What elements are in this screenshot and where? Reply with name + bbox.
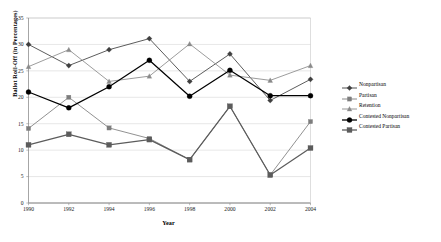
series-line <box>29 106 311 175</box>
data-point <box>308 77 313 82</box>
legend-label: Retention <box>358 102 380 108</box>
series-retention <box>26 41 313 83</box>
legend-item-contested-nonpartisan[interactable]: Contested Nonpartisan <box>341 111 439 122</box>
legend-marker-square-icon <box>341 121 358 131</box>
legend-label: Contested Nonpartisan <box>358 113 409 119</box>
data-point <box>106 47 111 52</box>
legend-label: Nonpartisan <box>358 81 386 87</box>
data-point <box>147 137 152 142</box>
data-point <box>107 126 111 130</box>
data-point <box>268 172 273 177</box>
legend-marker-triangle-icon <box>341 100 358 110</box>
data-point <box>66 47 71 52</box>
series-nonpartisan <box>26 36 313 103</box>
series-line <box>29 39 311 101</box>
legend-marker-circle-icon <box>341 111 358 121</box>
data-point <box>308 93 313 98</box>
series-line <box>29 44 311 82</box>
legend-item-partisan[interactable]: Partisan <box>341 90 439 101</box>
data-point <box>26 142 31 147</box>
data-point <box>26 90 31 95</box>
data-point <box>308 63 313 68</box>
data-series-layer <box>26 36 313 177</box>
data-point <box>308 146 313 151</box>
series-contested-partisan <box>26 104 313 178</box>
chart-container: Ballot Roll-Off (in Percentages) Year 05… <box>0 0 441 242</box>
data-point <box>26 42 31 47</box>
data-point <box>66 63 71 68</box>
legend-item-retention[interactable]: Retention <box>341 100 439 111</box>
data-point <box>66 105 71 110</box>
legend-marker-square-icon <box>341 90 358 100</box>
legend-item-contested-partisan[interactable]: Contested Partisan <box>341 121 439 132</box>
data-point <box>227 104 232 109</box>
legend-item-nonpartisan[interactable]: Nonpartisan <box>341 79 439 90</box>
legend-label: Contested Partisan <box>358 123 400 129</box>
data-point <box>268 93 273 98</box>
chart-legend: NonpartisanPartisanRetentionContested No… <box>341 79 439 132</box>
data-point <box>26 126 30 130</box>
data-point <box>187 157 192 162</box>
data-point <box>107 142 112 147</box>
data-point <box>187 94 192 99</box>
data-point <box>147 58 152 63</box>
data-point <box>26 64 31 69</box>
legend-label: Partisan <box>358 92 377 98</box>
data-point <box>66 132 71 137</box>
data-point <box>227 68 232 73</box>
data-point <box>187 41 192 46</box>
data-point <box>107 84 112 89</box>
data-point <box>308 120 312 124</box>
legend-marker-diamond-icon <box>341 79 358 89</box>
data-point <box>67 95 71 99</box>
